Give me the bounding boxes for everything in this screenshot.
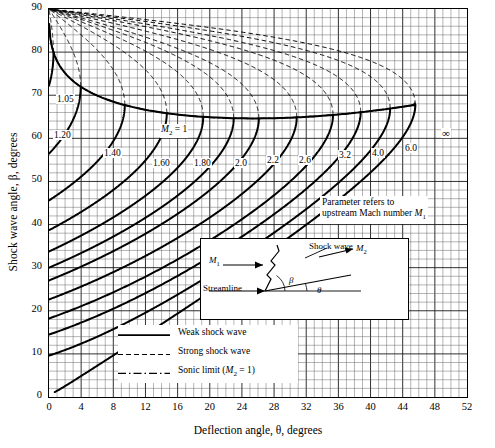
legend-strong-shock-label: Strong shock wave [178,346,250,356]
x-axis-label: Deflection angle, θ, degrees [48,424,468,436]
y-tick-label: 70 [2,87,42,98]
inset-m1-label: M1 [209,255,220,267]
mach-curve-label: 2.0 [234,158,248,168]
x-tick-label: 20 [195,401,225,412]
mach-curve-label: 1.40 [103,148,122,158]
legend-sonic-limit-label: Sonic limit (M2 = 1) [178,365,255,378]
y-tick-label: 30 [2,260,42,271]
x-tick-label: 36 [323,401,353,412]
x-tick-label: 40 [356,401,386,412]
x-tick-label: 12 [130,401,160,412]
legend-row: Strong shock wave [118,344,298,363]
mach-curve-label: 6.0 [404,143,418,153]
mach-curve-label: 2.2 [266,155,280,165]
legend-sonic-limit-line [118,372,170,374]
x-tick-label: 52 [452,401,482,412]
legend-row: Sonic limit (M2 = 1) [118,363,298,382]
x-tick-label: 44 [388,401,418,412]
mach-curve-label: 1.60 [152,158,171,168]
mach-curve-label: 4.0 [371,148,385,158]
y-tick-label: 80 [2,44,42,55]
sonic-limit-label: M2 = 1 [160,124,188,138]
legend-row: Weak shock wave [118,325,298,344]
inset-shock-wave-label: Shock wave [309,241,353,251]
x-tick-label: 16 [163,401,193,412]
parameter-note: Parameter refers toupstream Mach number … [320,196,428,224]
inset-beta-label: β [289,275,293,285]
x-tick-label: 28 [259,401,289,412]
x-tick-label: 0 [34,401,64,412]
legend-strong-shock-line [118,353,170,355]
x-tick-label: 32 [291,401,321,412]
mach-curve-label: 3.2 [338,150,352,160]
legend: Weak shock wave Strong shock wave Sonic … [118,325,298,383]
y-tick-label: 60 [2,130,42,141]
legend-weak-shock-label: Weak shock wave [178,327,246,337]
inset-diagram: Shock wave M1 M2 Streamline β θ [200,238,409,320]
x-tick-label: 4 [66,401,96,412]
x-tick-label: 48 [420,401,450,412]
x-tick-label: 8 [98,401,128,412]
mach-curve-label: 2.6 [298,155,312,165]
x-tick-label: 24 [227,401,257,412]
mach-curve-label: 1.20 [53,130,72,140]
inset-streamline-label: Streamline [203,283,242,293]
y-tick-label: 50 [2,173,42,184]
y-tick-label: 20 [2,303,42,314]
mach-curve-label: ∞ [441,128,451,138]
mach-curve-label: 1.05 [56,94,75,104]
y-tick-label: 0 [2,389,42,400]
y-tick-label: 10 [2,346,42,357]
legend-weak-shock-line [118,334,170,336]
y-tick-label: 90 [2,1,42,12]
mach-curve-label: 1.80 [193,158,212,168]
inset-theta-label: θ [317,285,321,295]
shock-chart-figure: Shock wave angle, β, degrees Deflection … [0,0,495,448]
inset-sketch [201,239,408,319]
y-tick-label: 40 [2,217,42,228]
inset-m2-label: M2 [356,243,367,255]
